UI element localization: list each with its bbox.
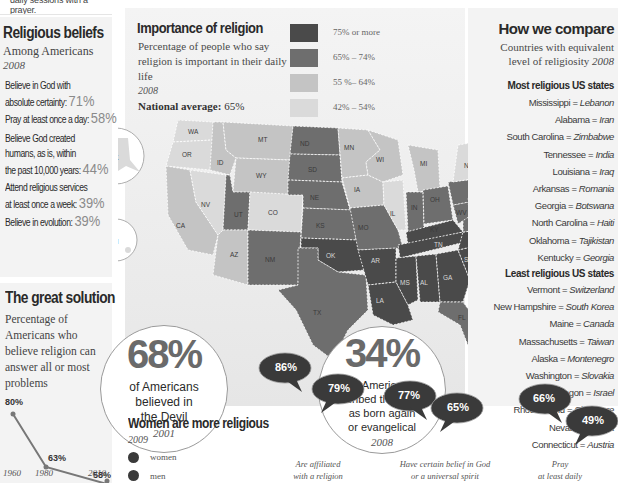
svg-text:NV: NV — [201, 201, 211, 208]
label-1960: 80% — [5, 397, 23, 407]
legend-swatch — [290, 24, 318, 42]
beliefs-title: Religious beliefs — [3, 24, 104, 42]
compare-item: North Carolina = Haiti — [506, 214, 614, 231]
born-again-percentage: 34% — [319, 331, 445, 376]
compare-item: New Hampshire = South Korea — [494, 298, 614, 315]
svg-text:1980: 1980 — [35, 468, 54, 478]
svg-text:IL: IL — [390, 210, 396, 217]
svg-text:LA: LA — [376, 297, 385, 304]
legend-swatch — [290, 49, 318, 67]
belief-pct: 44% — [83, 160, 109, 177]
solution-description: Percentage of Americans who believe reli… — [5, 311, 110, 391]
divider — [0, 14, 112, 15]
state-mi[interactable] — [408, 145, 440, 192]
compare-item: South Carolina = Zimbabwe — [506, 128, 614, 145]
men-legend-label: men — [150, 471, 166, 481]
belief-pct: 58% — [91, 109, 117, 126]
svg-text:MS: MS — [400, 279, 410, 286]
svg-text:TX: TX — [313, 309, 322, 316]
state-oh[interactable] — [423, 186, 453, 224]
compare-item: Maine = Canada — [494, 315, 614, 332]
state-ia[interactable] — [342, 175, 384, 208]
svg-text:KY: KY — [430, 226, 439, 233]
svg-text:MN: MN — [344, 144, 354, 151]
most-religious-heading: Most religious US states — [507, 80, 614, 91]
belief-item: Believe in evolution: 39% — [5, 213, 100, 230]
belief-item: Pray at least once a day: 58% — [5, 110, 117, 127]
state-hi[interactable] — [125, 247, 131, 253]
compare-item: Georgia = Botswana — [506, 197, 614, 214]
women-section-title: Women are more religious — [128, 415, 269, 431]
caption-pray: Pray at least daily — [520, 458, 600, 482]
women-bubble-value: 66% — [516, 392, 572, 404]
compare-item: Vermont = Switzerland — [494, 281, 614, 298]
state-in[interactable] — [406, 192, 424, 232]
left-column: daily sessions with a prayer. Religious … — [0, 0, 112, 483]
beliefs-year: 2008 — [3, 59, 25, 71]
importance-year: 2008 — [138, 85, 158, 96]
caption-affiliated: Are affiliated with a religion — [268, 458, 368, 482]
svg-text:MT: MT — [258, 136, 267, 143]
legend-swatch — [290, 74, 318, 92]
svg-text:AZ: AZ — [230, 251, 238, 258]
svg-text:NM: NM — [265, 256, 275, 263]
compare-item: Massachusetts = Taiwan — [494, 333, 614, 350]
legend-item: 65% – 74% — [290, 49, 450, 69]
svg-text:AL: AL — [420, 279, 428, 286]
men-bubble-value: 65% — [430, 401, 486, 413]
compare-item: Washington = Slovakia — [494, 367, 614, 384]
state-ks[interactable] — [301, 208, 356, 240]
svg-text:WV: WV — [456, 209, 467, 216]
men-bubble-value: 49% — [565, 414, 618, 426]
compare-item: Mississippi = Lebanon — [506, 94, 614, 111]
belief-item: Attend religious services at least once … — [5, 180, 105, 212]
x-axis-years: 1960 1980 2010 — [0, 465, 112, 483]
importance-description: Percentage of people who say religion is… — [138, 39, 288, 84]
solution-title: The great solution — [5, 289, 115, 307]
state-nd[interactable] — [290, 126, 340, 155]
beliefs-subtitle: Among Americans — [3, 44, 93, 59]
svg-text:NE: NE — [310, 194, 320, 201]
compare-title: How we compare — [498, 20, 614, 37]
compare-item: Alabama = Iran — [506, 111, 614, 128]
svg-text:IA: IA — [354, 186, 361, 193]
belief-item: Believe in God with absolute certainty: … — [5, 78, 94, 110]
belief-pct: 39% — [79, 194, 105, 211]
svg-text:WI: WI — [376, 156, 384, 163]
compare-item: Louisiana = Iraq — [506, 163, 614, 180]
hawaii-inset — [118, 219, 137, 261]
least-religious-heading: Least religious US states — [505, 268, 614, 279]
svg-text:AR: AR — [371, 257, 380, 264]
svg-text:OK: OK — [326, 252, 336, 259]
compare-item: Kentucky = Georgia — [506, 249, 614, 266]
top-snippet-text: daily sessions with a prayer. — [10, 0, 112, 15]
speech-bubble-icon — [428, 392, 484, 434]
belief-item: Believe God created humans, as is, withi… — [5, 131, 108, 178]
svg-text:WY: WY — [256, 172, 267, 179]
importance-title: Importance of religion — [137, 19, 263, 36]
svg-text:GA: GA — [443, 274, 453, 281]
legend-item: 75% or more — [290, 24, 450, 44]
legend-swatch — [290, 99, 318, 117]
national-average: National average: 65% — [138, 100, 244, 112]
svg-text:OH: OH — [430, 196, 440, 203]
svg-text:MO: MO — [358, 224, 368, 231]
data-point — [11, 412, 16, 417]
svg-text:CA: CA — [176, 222, 186, 229]
compare-item: Oklahoma = Tajikistan — [506, 232, 614, 249]
belief-pct: 39% — [74, 212, 100, 229]
svg-text:1960: 1960 — [3, 468, 22, 478]
devil-percentage: 68% — [101, 332, 227, 377]
women-section-year: 2009 — [128, 434, 148, 445]
svg-text:SD: SD — [308, 166, 317, 173]
svg-text:UT: UT — [234, 211, 243, 218]
legend-item: 42% – 54% — [290, 99, 450, 119]
born-again-year: 2008 — [319, 436, 445, 448]
speech-bubble-icon — [309, 373, 365, 415]
svg-text:FL: FL — [458, 314, 466, 321]
svg-text:IN: IN — [411, 204, 418, 211]
compare-description: Countries with equivalent level of relig… — [454, 40, 614, 68]
women-legend-label: women — [150, 452, 177, 462]
svg-text:2010: 2010 — [88, 468, 107, 478]
speech-bubble-icon — [563, 405, 618, 447]
